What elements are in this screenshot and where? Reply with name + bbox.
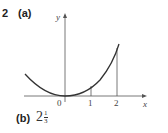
x-axis-label: x bbox=[142, 99, 147, 109]
answer-whole: 2 bbox=[36, 109, 43, 124]
answer-fraction: 13 bbox=[44, 110, 48, 125]
parabola-curve bbox=[25, 44, 119, 96]
x-axis-arrow-icon bbox=[142, 94, 147, 98]
part-b-label: (b) bbox=[16, 112, 30, 124]
tick-1: 1 bbox=[88, 98, 93, 108]
y-axis-arrow-icon bbox=[63, 13, 67, 18]
tick-2: 2 bbox=[114, 98, 119, 108]
answer-denominator: 3 bbox=[44, 117, 48, 125]
answer-numerator: 1 bbox=[44, 110, 48, 117]
tick-0: 0 bbox=[57, 98, 62, 108]
part-b-answer: 213 bbox=[36, 109, 48, 125]
y-axis-label: y bbox=[55, 12, 60, 22]
